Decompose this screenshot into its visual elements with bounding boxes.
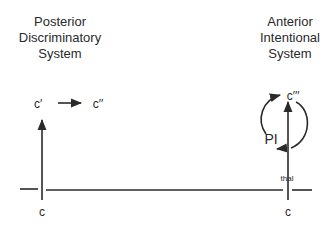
diagram-canvas: Posterior Discriminatory System Anterior… [0, 0, 333, 230]
title-line: Anterior [267, 14, 313, 29]
loop-arc-right [291, 102, 307, 148]
title-line: Discriminatory [19, 30, 102, 45]
loop-return-arrow [277, 148, 287, 149]
loop-arc-left [261, 95, 280, 134]
c-triple-prime-label: c′′′ [287, 89, 301, 103]
anterior-system-title: Anterior Intentional System [260, 14, 320, 61]
title-line: Posterior [34, 14, 87, 29]
title-line: System [38, 46, 81, 61]
title-line: System [268, 46, 311, 61]
left-base-label: c [39, 205, 45, 219]
thal-label: thal [281, 174, 294, 183]
right-base-label: c [285, 205, 291, 219]
c-double-prime-label: c′′ [93, 97, 104, 111]
posterior-system-title: Posterior Discriminatory System [19, 14, 102, 61]
pi-label: PI [264, 131, 277, 147]
title-line: Intentional [260, 30, 320, 45]
c-prime-label: c′ [34, 97, 43, 111]
